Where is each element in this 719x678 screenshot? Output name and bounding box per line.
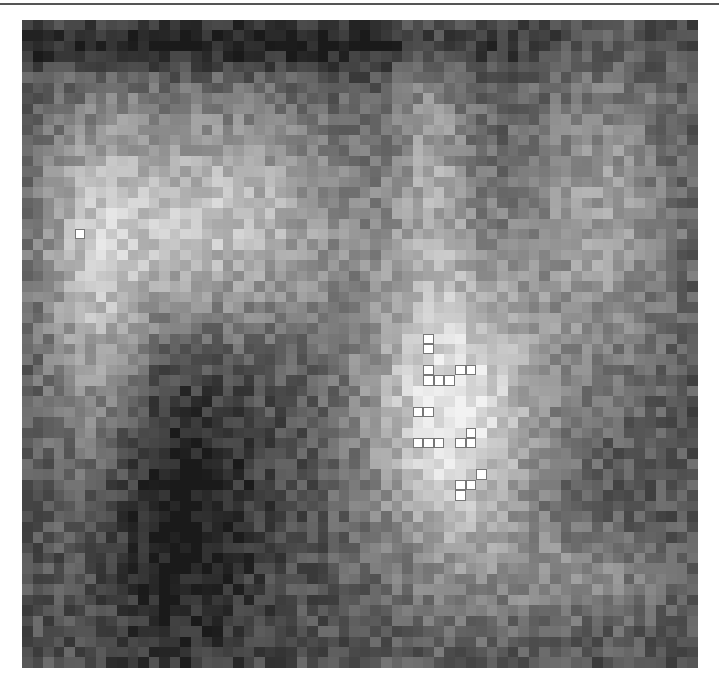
highlighted-cell bbox=[434, 375, 445, 385]
highlighted-cell bbox=[455, 365, 466, 375]
highlighted-cell bbox=[75, 229, 86, 239]
highlighted-cell bbox=[413, 407, 424, 417]
highlighted-cell bbox=[434, 438, 445, 448]
highlighted-cell bbox=[466, 365, 477, 375]
highlighted-cell bbox=[476, 469, 487, 479]
highlighted-cell bbox=[455, 480, 466, 490]
grayscale-mosaic-image bbox=[22, 20, 698, 668]
top-rule bbox=[0, 3, 719, 5]
highlighted-cell bbox=[466, 428, 477, 438]
highlighted-cell bbox=[423, 334, 434, 344]
highlighted-cell bbox=[466, 480, 477, 490]
highlighted-cell bbox=[423, 375, 434, 385]
highlighted-cell bbox=[413, 438, 424, 448]
highlighted-cell bbox=[423, 407, 434, 417]
highlighted-cell bbox=[423, 365, 434, 375]
highlighted-cell bbox=[423, 344, 434, 354]
highlighted-cell bbox=[423, 438, 434, 448]
highlighted-cell bbox=[444, 375, 455, 385]
highlighted-cell bbox=[455, 490, 466, 500]
highlighted-cell bbox=[455, 438, 466, 448]
highlighted-cell bbox=[466, 438, 477, 448]
